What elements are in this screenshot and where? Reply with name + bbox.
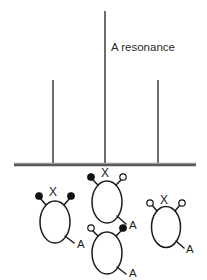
spin-marker-left [36, 193, 43, 200]
bond-to-a [117, 267, 126, 274]
baseline-group [14, 163, 196, 165]
bond-left-x [152, 205, 157, 211]
nmr-triplet-figure: A resonance X A X A [0, 0, 207, 280]
spin-marker-left [88, 174, 95, 181]
spin-marker-right [120, 225, 127, 232]
molecule-beta-beta: X A [147, 193, 194, 255]
a-label: A [186, 243, 194, 255]
bond-to-a [117, 216, 126, 224]
bond-right-x [175, 205, 180, 211]
spectrum-canvas: A resonance X A X A [0, 0, 207, 280]
a-label: A [129, 219, 137, 231]
molecule-beta-alpha: A [88, 225, 137, 279]
x-label: X [101, 166, 109, 180]
spin-marker-left [147, 200, 153, 206]
bond-to-a [176, 241, 184, 248]
a-resonance-label: A resonance [111, 41, 175, 53]
spin-marker-right [179, 200, 185, 206]
a-label: A [77, 238, 85, 250]
x-label: X [49, 185, 57, 199]
a-label: A [129, 267, 137, 279]
bond-to-a [65, 236, 74, 243]
molecule-alpha-beta: X A [88, 166, 137, 231]
molecule-alpha-alpha: X A [36, 185, 85, 250]
spin-marker-right [68, 193, 75, 200]
spin-marker-right [120, 174, 126, 180]
peak-group [53, 11, 158, 165]
spin-marker-left [88, 225, 94, 231]
x-label: X [160, 193, 168, 207]
